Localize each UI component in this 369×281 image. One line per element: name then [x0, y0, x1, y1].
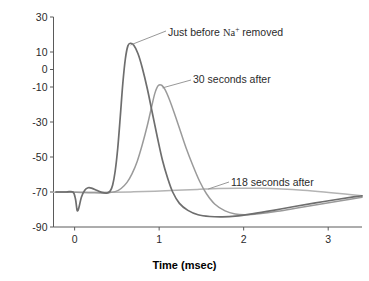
figure-caption — [0, 272, 369, 281]
annotation-118-seconds: 118 seconds after — [231, 176, 314, 188]
annotation-just-before: Just before Na+ removed — [168, 24, 283, 38]
annotation-30-seconds-leader — [163, 80, 191, 88]
svg-text:0: 0 — [42, 63, 48, 75]
y-axis-label: Membrane potential (mV) — [0, 0, 20, 28]
figure-container: 30100-10-30-50-70-900123 Membrane potent… — [0, 0, 369, 281]
axes-group: 30100-10-30-50-70-900123 — [32, 11, 362, 245]
svg-text:-70: -70 — [32, 186, 47, 198]
svg-text:-90: -90 — [32, 221, 47, 233]
curve-30-seconds — [56, 85, 362, 215]
x-axis-label: Time (msec) — [0, 259, 369, 271]
svg-text:-50: -50 — [32, 151, 47, 163]
svg-text:1: 1 — [156, 233, 162, 245]
svg-text:3: 3 — [325, 233, 331, 245]
svg-text:-10: -10 — [32, 81, 47, 93]
leader-lines-group — [130, 31, 229, 189]
svg-text:-30: -30 — [32, 116, 47, 128]
curves-group — [54, 43, 363, 217]
svg-text:10: 10 — [36, 46, 48, 58]
svg-text:0: 0 — [72, 233, 78, 245]
svg-text:2: 2 — [241, 233, 247, 245]
annotation-just-before-leader — [130, 31, 166, 45]
chart-plot-area: 30100-10-30-50-70-900123 — [0, 0, 369, 281]
svg-text:30: 30 — [36, 11, 48, 23]
annotation-30-seconds: 30 seconds after — [193, 73, 271, 85]
